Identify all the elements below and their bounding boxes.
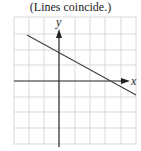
coordinate-graph: x y — [0, 0, 141, 151]
x-axis-label: x — [130, 74, 137, 88]
y-axis-label: y — [55, 15, 62, 29]
x-axis-arrow-icon — [121, 78, 130, 84]
